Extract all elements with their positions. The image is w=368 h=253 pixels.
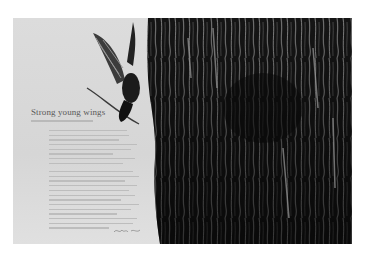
body-text-line xyxy=(49,180,125,181)
body-text-line xyxy=(49,139,119,140)
body-text-line xyxy=(49,213,117,214)
body-text-line xyxy=(49,163,123,164)
body-text-line xyxy=(49,171,133,172)
body-text-line xyxy=(49,130,127,131)
body-text-line xyxy=(49,223,133,224)
body-text-line xyxy=(49,190,129,191)
article-title: Strong young wings xyxy=(31,107,105,117)
body-text-line xyxy=(49,185,137,186)
photo-spread: Strong young wings xyxy=(13,18,352,244)
body-text-line xyxy=(49,149,131,150)
body-text-line xyxy=(49,199,121,200)
body-text-line xyxy=(49,218,137,219)
body-text-line xyxy=(49,135,129,136)
body-text-line xyxy=(49,153,113,154)
body-text-line xyxy=(49,209,131,210)
article-subtitle xyxy=(31,120,93,122)
body-text-line xyxy=(49,176,139,177)
author-signature xyxy=(113,228,141,234)
body-text-line xyxy=(49,195,135,196)
body-text-line xyxy=(49,158,135,159)
body-text-line xyxy=(49,227,109,228)
body-text-line xyxy=(49,144,137,145)
article-body xyxy=(49,130,149,232)
body-text-line xyxy=(49,204,139,205)
